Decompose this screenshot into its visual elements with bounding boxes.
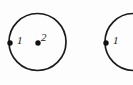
point-c1-center-label: 2 — [41, 32, 47, 43]
figure-canvas: 1 2 1 — [0, 0, 133, 85]
point-c1-left-label: 1 — [17, 35, 23, 46]
point-c2-left-dot — [103, 40, 108, 45]
point-c1-center-dot — [35, 40, 40, 45]
point-c1-left-dot — [7, 40, 12, 45]
circle-2-outline — [105, 14, 133, 71]
point-c2-left-label: 1 — [113, 35, 119, 46]
